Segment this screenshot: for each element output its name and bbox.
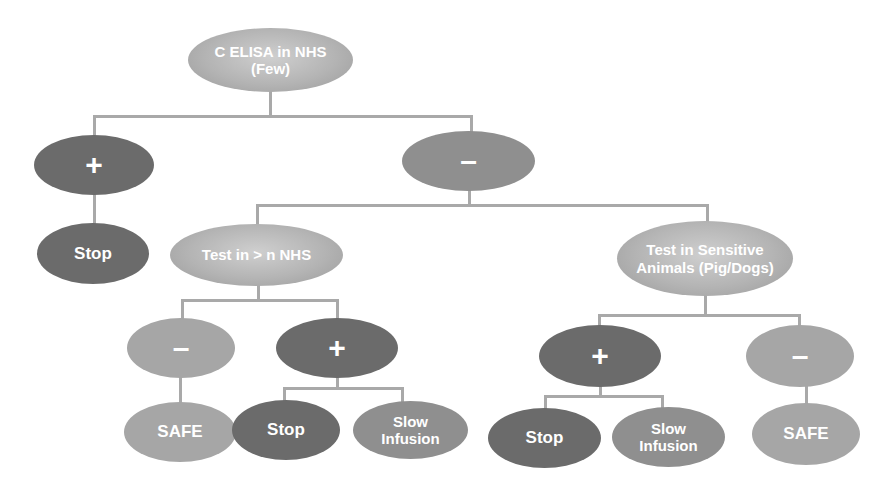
nhs-positive-node: + <box>276 318 398 378</box>
plus-icon: + <box>591 339 609 374</box>
root-node-c-elisa: C ELISA in NHS (Few) <box>188 28 353 92</box>
plus-icon: + <box>328 331 346 366</box>
slow-infusion-line2: Infusion <box>639 437 697 454</box>
connector <box>704 294 707 316</box>
slow-infusion-node: Slow Infusion <box>353 401 468 459</box>
connector <box>269 90 272 117</box>
connector <box>544 395 664 398</box>
animal-positive-node: + <box>539 325 661 387</box>
test-animals-line1: Test in Sensitive <box>636 241 774 258</box>
slow-infusion-line2: Infusion <box>381 430 439 447</box>
connector <box>336 299 339 320</box>
test-nhs-node: Test in > n NHS <box>170 224 343 286</box>
connector <box>93 115 473 118</box>
minus-icon: – <box>792 339 809 374</box>
root-label-line1: C ELISA in NHS <box>215 43 327 60</box>
connector <box>256 204 259 226</box>
connector <box>283 387 404 390</box>
safe-node: SAFE <box>124 402 236 462</box>
test-animals-line2: Animals (Pig/Dogs) <box>636 259 774 276</box>
test-nhs-label: Test in > n NHS <box>202 246 311 263</box>
test-animals-node: Test in Sensitive Animals (Pig/Dogs) <box>617 221 793 296</box>
safe-node: SAFE <box>752 403 860 465</box>
slow-infusion-line1: Slow <box>639 420 697 437</box>
connector <box>544 395 547 409</box>
connector <box>598 314 801 317</box>
animal-negative-node: – <box>746 325 854 387</box>
stop-node: Stop <box>488 408 601 468</box>
minus-icon: – <box>173 331 190 366</box>
decision-tree-diagram: C ELISA in NHS (Few) + Stop – Test in > … <box>0 0 891 481</box>
connector <box>181 299 184 320</box>
stop-node: Stop <box>232 400 340 460</box>
slow-infusion-line1: Slow <box>381 413 439 430</box>
nhs-negative-node: – <box>127 318 235 378</box>
positive-result-node: + <box>34 135 154 195</box>
safe-label: SAFE <box>783 424 828 444</box>
stop-node: Stop <box>37 223 149 284</box>
minus-icon: – <box>460 144 477 179</box>
connector <box>93 193 96 225</box>
connector <box>401 387 404 402</box>
negative-result-node: – <box>402 131 535 191</box>
connector <box>181 299 339 302</box>
slow-infusion-node: Slow Infusion <box>612 407 725 467</box>
plus-icon: + <box>85 148 103 183</box>
connector <box>256 204 709 207</box>
root-label-line2: (Few) <box>215 60 327 77</box>
connector <box>93 115 96 137</box>
safe-label: SAFE <box>157 422 202 442</box>
stop-label: Stop <box>526 428 564 448</box>
connector <box>179 376 182 404</box>
stop-label: Stop <box>267 420 305 440</box>
stop-label: Stop <box>74 244 112 264</box>
